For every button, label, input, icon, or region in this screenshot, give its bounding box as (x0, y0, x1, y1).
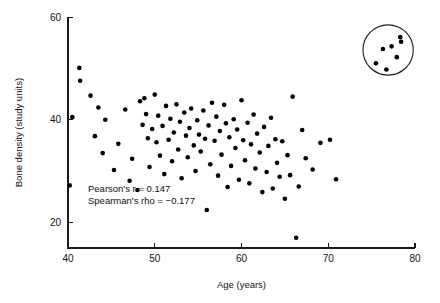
data-point (210, 101, 215, 106)
annotation-line-1: Pearson's r = 0.147 (88, 183, 170, 194)
data-point (247, 181, 252, 186)
data-point (328, 137, 333, 142)
data-point (318, 141, 323, 146)
data-point (269, 115, 274, 120)
data-point (179, 176, 184, 181)
data-point (187, 126, 192, 131)
data-point (310, 167, 315, 172)
data-point (112, 168, 117, 173)
data-point (170, 159, 175, 164)
data-point (253, 166, 258, 171)
data-point (178, 119, 183, 124)
data-point (239, 98, 244, 103)
data-point (156, 113, 161, 118)
x-axis-title: Age (years) (217, 279, 266, 290)
data-point (147, 165, 152, 170)
data-point (237, 177, 242, 182)
data-point (374, 61, 379, 66)
data-point (255, 131, 260, 136)
data-point (251, 112, 256, 117)
x-tick-label: 70 (323, 253, 335, 264)
data-point (216, 173, 221, 178)
data-point (205, 208, 210, 213)
cluster-highlight-ring (363, 25, 413, 75)
data-point (260, 190, 265, 195)
scatter-plot-figure: 4050607080204060 Age (years)Bone density… (0, 0, 440, 303)
data-point (154, 140, 159, 145)
data-point (218, 129, 223, 134)
data-point (116, 142, 121, 147)
data-point (191, 143, 196, 148)
data-points-layer (67, 35, 403, 240)
data-point (389, 44, 394, 49)
data-point (160, 124, 165, 129)
data-point (174, 102, 179, 107)
data-point (245, 121, 250, 126)
data-point (123, 107, 128, 112)
data-point (288, 173, 293, 178)
data-point (67, 183, 72, 188)
data-point (103, 117, 108, 122)
data-point (233, 146, 238, 151)
data-point (222, 103, 227, 108)
y-axis-title: Bone density (study units) (13, 78, 24, 187)
y-tick-label: 40 (50, 114, 62, 125)
data-point (399, 39, 404, 44)
data-point (290, 94, 295, 99)
data-point (100, 151, 105, 156)
data-point (224, 121, 229, 126)
data-point (398, 35, 403, 40)
data-point (249, 142, 254, 147)
data-point (334, 177, 339, 182)
data-point (144, 112, 149, 117)
data-point (270, 186, 275, 191)
data-point (78, 78, 83, 83)
data-point (262, 125, 267, 130)
annotation-line-2: Spearman's rho = −0.177 (88, 195, 195, 206)
data-point (70, 115, 75, 120)
data-point (130, 156, 135, 161)
data-point (182, 110, 187, 115)
data-point (384, 67, 389, 72)
data-point (264, 170, 269, 175)
data-point (138, 99, 143, 104)
data-point (164, 104, 169, 109)
data-point (394, 55, 399, 60)
data-point (150, 127, 155, 132)
data-point (162, 172, 167, 177)
data-point (77, 66, 82, 71)
data-point (168, 116, 173, 121)
data-point (88, 93, 93, 98)
x-tick-label: 60 (236, 253, 248, 264)
data-point (285, 153, 290, 158)
data-point (208, 162, 213, 167)
data-point (166, 137, 171, 142)
cluster-highlight-circle (363, 25, 413, 75)
data-point (197, 132, 202, 137)
data-point (241, 138, 246, 143)
data-point (275, 161, 280, 166)
x-tick-label: 80 (409, 253, 421, 264)
data-point (225, 185, 230, 190)
data-point (172, 130, 177, 135)
data-point (198, 149, 203, 154)
data-point (193, 169, 198, 174)
data-point (158, 153, 163, 158)
data-point (296, 184, 301, 189)
data-point (189, 106, 194, 111)
data-point (176, 147, 181, 152)
data-point (93, 134, 98, 139)
data-point (283, 196, 288, 201)
data-point (273, 137, 278, 142)
data-point (266, 144, 271, 149)
data-point (300, 128, 305, 133)
data-point (206, 123, 211, 128)
x-tick-label: 40 (62, 253, 74, 264)
data-point (219, 152, 224, 157)
statistics-annotation: Pearson's r = 0.147Spearman's rho = −0.1… (88, 183, 195, 206)
data-point (257, 150, 262, 155)
data-point (96, 105, 101, 110)
data-point (229, 164, 234, 169)
data-point (277, 174, 282, 179)
data-point (227, 135, 232, 140)
